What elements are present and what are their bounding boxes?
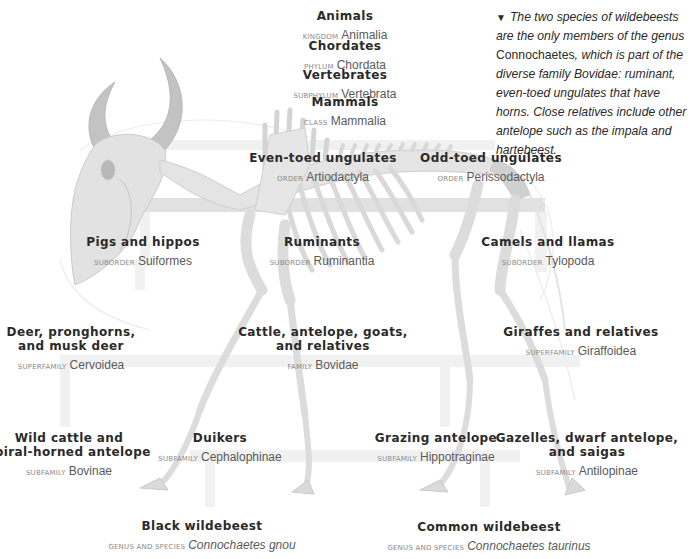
common-name: Odd-toed ungulates <box>420 152 562 166</box>
rank-label: Suborder <box>94 259 135 267</box>
common-name-line1: Deer, pronghorns, <box>7 326 136 340</box>
scientific-name: Artiodactyla <box>306 170 369 184</box>
scientific-name: Cervoidea <box>70 358 125 372</box>
node-order-perissodactyla: Odd-toed ungulates OrderPerissodactyla <box>420 152 562 185</box>
node-suborder-tylopoda: Camels and llamas SuborderTylopoda <box>481 236 614 269</box>
node-family-bovidae: Cattle, antelope, goats, and relatives F… <box>238 326 408 373</box>
common-name: Grazing antelope <box>375 432 497 446</box>
common-name-line2: and musk deer <box>7 340 136 354</box>
common-name: Animals <box>303 10 388 24</box>
taxonomy-diagram: ▼The two species of wildebeests are the … <box>0 0 692 559</box>
common-name: Camels and llamas <box>481 236 614 250</box>
common-name-line2: and saigas <box>496 446 679 460</box>
common-name: Pigs and hippos <box>86 236 199 250</box>
rank-label: Genus and species <box>108 543 185 551</box>
scientific-name: Bovidae <box>315 358 358 372</box>
common-name: Giraffes and relatives <box>503 326 658 340</box>
rank-label: Class <box>304 119 328 127</box>
node-class: Mammals ClassMammalia <box>304 96 386 129</box>
node-subfamily-bovinae: Wild cattle and spiral-horned antelope S… <box>0 432 151 479</box>
rank-label: Subfamily <box>158 455 198 463</box>
node-subfamily-hippotraginae: Grazing antelope SubfamilyHippotraginae <box>375 432 497 465</box>
node-suborder-suiformes: Pigs and hippos SuborderSuiformes <box>86 236 199 269</box>
scientific-name: Connochaetes gnou <box>188 538 295 552</box>
common-name-line1: Gazelles, dwarf antelope, <box>496 432 679 446</box>
scientific-name: Connochaetes taurinus <box>467 539 590 553</box>
common-name-line2: and relatives <box>238 340 408 354</box>
caption-genus: Connochaetes <box>496 48 575 62</box>
scientific-name: Tylopoda <box>546 254 595 268</box>
rank-label: Subfamily <box>536 469 576 477</box>
rank-label: Genus and species <box>387 544 464 552</box>
node-superfamily-cervoidea: Deer, pronghorns, and musk deer Superfam… <box>7 326 136 373</box>
scientific-name: Ruminantia <box>314 254 375 268</box>
common-name: Duikers <box>158 432 281 446</box>
node-order-artiodactyla: Even-toed ungulates OrderArtiodactyla <box>249 152 397 185</box>
common-name: Vertebrates <box>293 69 396 83</box>
rank-label: Family <box>287 363 312 371</box>
node-suborder-ruminantia: Ruminants SuborderRuminantia <box>270 236 375 269</box>
common-name-line2: spiral-horned antelope <box>0 446 151 460</box>
rank-label: Order <box>277 175 303 183</box>
scientific-name: Mammalia <box>331 114 386 128</box>
node-superfamily-giraffoidea: Giraffes and relatives SuperfamilyGiraff… <box>503 326 658 359</box>
node-subfamily-antilopinae: Gazelles, dwarf antelope, and saigas Sub… <box>496 432 679 479</box>
common-name: Ruminants <box>270 236 375 250</box>
scientific-name: Giraffoidea <box>578 344 636 358</box>
caption-text-after: , which is part of the diverse family Bo… <box>496 48 686 157</box>
scientific-name: Bovinae <box>69 464 112 478</box>
rank-label: Superfamily <box>526 349 575 357</box>
node-subfamily-cephalophinae: Duikers SubfamilyCephalophinae <box>158 432 281 465</box>
rank-label: Suborder <box>270 259 311 267</box>
scientific-name: Hippotraginae <box>420 450 495 464</box>
common-name-line1: Cattle, antelope, goats, <box>238 326 408 340</box>
common-name: Mammals <box>304 96 386 110</box>
node-species-taurinus: Common wildebeest Genus and speciesConno… <box>387 521 590 554</box>
common-name: Chordates <box>304 40 386 54</box>
node-species-gnou: Black wildebeest Genus and speciesConnoc… <box>108 520 295 553</box>
caption: ▼The two species of wildebeests are the … <box>496 8 688 160</box>
common-name: Common wildebeest <box>387 521 590 535</box>
triangle-down-icon: ▼ <box>496 12 506 23</box>
scientific-name: Cephalophinae <box>201 450 282 464</box>
common-name: Black wildebeest <box>108 520 295 534</box>
rank-label: Subfamily <box>26 469 66 477</box>
common-name: Even-toed ungulates <box>249 152 397 166</box>
scientific-name: Suiformes <box>138 254 192 268</box>
rank-label: Suborder <box>502 259 543 267</box>
scientific-name: Perissodactyla <box>467 170 545 184</box>
common-name-line1: Wild cattle and <box>0 432 151 446</box>
caption-text-before: The two species of wildebeests are the o… <box>496 10 684 43</box>
rank-label: Order <box>437 175 463 183</box>
rank-label: Subfamily <box>377 455 417 463</box>
rank-label: Superfamily <box>18 363 67 371</box>
scientific-name: Antilopinae <box>579 464 638 478</box>
